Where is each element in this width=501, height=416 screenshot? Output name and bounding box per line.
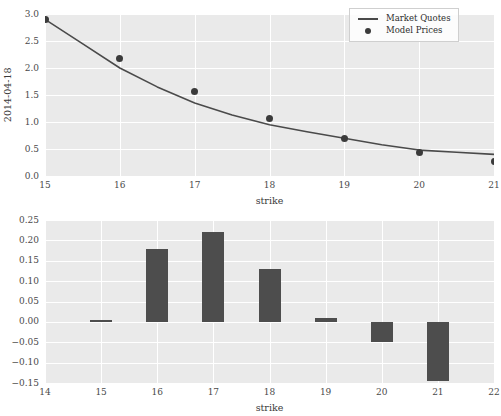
x-tick-label: 17	[208, 388, 219, 397]
x-tick-label: 21	[432, 388, 443, 397]
x-tick-label: 18	[264, 388, 275, 397]
error-bar	[146, 249, 168, 322]
x-tick-label: 19	[320, 388, 331, 397]
gridline-vertical	[382, 220, 383, 383]
x-tick-label: 20	[413, 181, 424, 190]
error-bar	[202, 232, 224, 322]
y-tick-label: 0.5	[0, 145, 39, 154]
y-tick-label: −0.05	[0, 338, 39, 347]
x-tick-label: 21	[488, 181, 499, 190]
legend-label-model-prices: Model Prices	[386, 25, 442, 36]
legend-item-model-prices: Model Prices	[355, 25, 451, 37]
x-tick-label: 16	[152, 388, 163, 397]
x-tick-label: 16	[114, 181, 125, 190]
y-tick-label: 3.0	[0, 10, 39, 19]
y-tick-label: 0.20	[0, 236, 39, 245]
chart-legend: Market Quotes Model Prices	[349, 8, 459, 42]
x-tick-label: 20	[376, 388, 387, 397]
model-price-marker	[45, 16, 49, 23]
error-bar	[427, 322, 449, 381]
x-tick-label: 15	[95, 388, 106, 397]
model-price-marker	[266, 115, 273, 122]
y-tick-label: −0.10	[0, 358, 39, 367]
y-tick-label: 0.05	[0, 297, 39, 306]
gridline-vertical	[326, 220, 327, 383]
legend-label-market-quotes: Market Quotes	[386, 13, 451, 24]
x-tick-label: 18	[264, 181, 275, 190]
x-tick-label: 14	[39, 388, 50, 397]
error-x-axis-label: strike	[45, 403, 494, 413]
y-tick-label: −0.15	[0, 379, 39, 388]
x-tick-label: 19	[339, 181, 350, 190]
model-price-marker	[491, 158, 495, 165]
y-tick-label: 0.15	[0, 256, 39, 265]
y-tick-label: 0.00	[0, 317, 39, 326]
legend-item-market-quotes: Market Quotes	[355, 13, 451, 25]
gridline-vertical	[101, 220, 102, 383]
y-tick-label: 0.25	[0, 216, 39, 225]
pricing-error-chart: −0.15−0.10−0.050.000.050.100.150.200.25 …	[0, 208, 501, 416]
price-y-axis-label: 2014-04-18	[3, 65, 13, 125]
error-bar	[90, 320, 112, 322]
y-tick-label: 2.5	[0, 37, 39, 46]
error-bar	[371, 322, 393, 342]
error-bar	[259, 269, 281, 322]
model-price-marker	[416, 149, 423, 156]
figure-canvas: 0.00.51.01.52.02.53.0 15161718192021 str…	[0, 0, 501, 416]
error-plot-area	[45, 220, 494, 383]
gridline-vertical	[45, 220, 46, 383]
legend-dot-icon	[355, 28, 381, 34]
x-tick-label: 17	[189, 181, 200, 190]
y-tick-label: 0.10	[0, 277, 39, 286]
price-x-axis-label: strike	[45, 196, 494, 206]
error-bar	[315, 318, 337, 322]
x-tick-label: 15	[39, 181, 50, 190]
legend-line-icon	[355, 18, 381, 20]
price-comparison-chart: 0.00.51.01.52.02.53.0 15161718192021 str…	[0, 0, 501, 208]
model-price-marker	[341, 135, 348, 142]
y-tick-label: 0.0	[0, 172, 39, 181]
x-tick-label: 22	[488, 388, 499, 397]
